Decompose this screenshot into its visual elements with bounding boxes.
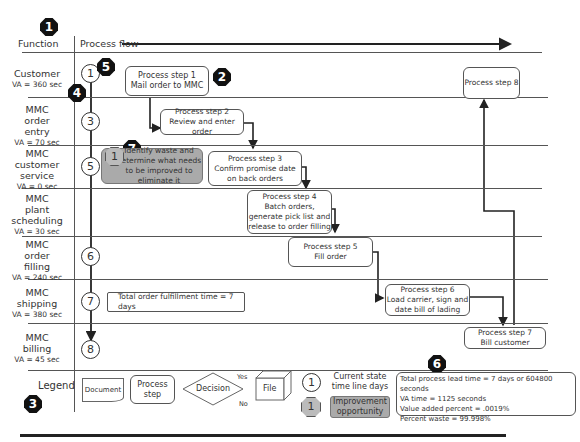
- timeline-circle: 3: [81, 112, 100, 131]
- timeline-circle: 6: [81, 247, 100, 266]
- lead-time: Total process lead time = 7 days or 6048…: [400, 374, 572, 394]
- va-value: VA = 240 sec: [0, 272, 74, 283]
- lane-separator: [28, 323, 548, 324]
- lane-separator: [28, 370, 548, 371]
- badge-1: 1: [40, 18, 58, 36]
- process-step-5[interactable]: Process step 5 Fill order: [288, 237, 373, 267]
- header-separator: [22, 52, 542, 53]
- legend-file: File: [263, 384, 276, 393]
- lane-order-entry: MMC order entry VA = 70 sec: [0, 104, 74, 148]
- lane-customer: Customer VA = 360 sec: [0, 68, 74, 90]
- legend-document: Document: [82, 378, 124, 402]
- process-step-4[interactable]: Process step 4 Batch orders, generate pi…: [247, 190, 332, 234]
- lane-order-filling: MMC order filling VA = 240 sec: [0, 239, 74, 283]
- lane-separator: [22, 188, 542, 189]
- va-time: VA time = 1125 seconds: [400, 394, 572, 404]
- process-step-2[interactable]: Process step 2 Review and enter order: [160, 109, 244, 135]
- legend-timeline-circle: 1: [302, 373, 321, 392]
- process-step-3[interactable]: Process step 3 Confirm promise date on b…: [208, 151, 302, 186]
- va-value: VA = 360 sec: [0, 79, 74, 90]
- legend-improvement-icon: 1: [301, 397, 321, 417]
- process-step-8[interactable]: Process step 8: [463, 67, 520, 99]
- timeline-circle: 7: [81, 292, 100, 311]
- lane-customer-service: MMC customer service VA = 0 sec: [0, 148, 74, 192]
- va-value: VA = 70 sec: [0, 137, 74, 148]
- va-percent: Value added percent = .0019%: [400, 404, 572, 414]
- process-step-1[interactable]: Process step 1 Mail order to MMC: [125, 66, 209, 96]
- process-step-6[interactable]: Process step 6 Load carrier, sign and da…: [385, 284, 470, 316]
- va-value: VA = 0 sec: [0, 181, 74, 192]
- legend-yes: Yes: [237, 373, 248, 381]
- badge-3: 3: [24, 395, 42, 413]
- function-header: Function: [18, 38, 58, 49]
- va-value: VA = 380 sec: [0, 309, 74, 320]
- summary-box: Total process lead time = 7 days or 6048…: [396, 372, 576, 416]
- va-value: VA = 45 sec: [0, 354, 74, 365]
- lane-separator: [28, 145, 548, 146]
- legend-no: No: [239, 400, 248, 408]
- legend-decision: Decision: [196, 384, 230, 393]
- lane-shipping: MMC shipping VA = 380 sec: [0, 287, 74, 320]
- lane-separator: [28, 279, 548, 280]
- va-value: VA = 30 sec: [0, 226, 74, 237]
- lane-billing: MMC billing VA = 45 sec: [0, 332, 74, 365]
- badge-6: 6: [428, 355, 446, 373]
- legend-process-step: Process step: [130, 375, 175, 404]
- legend-improvement-label: Improvement opportunity: [330, 396, 390, 418]
- process-step-7[interactable]: Process step 7 Bill customer: [464, 327, 546, 349]
- lane-separator: [22, 236, 542, 237]
- lane-plant-scheduling: MMC plant scheduling VA = 30 sec: [0, 193, 74, 237]
- fulfillment-note: Total order fulfillment time = 7 days: [107, 292, 245, 312]
- legend-label: Legend: [38, 380, 75, 391]
- bottom-rule: [20, 434, 506, 437]
- timeline-circle: 5: [81, 157, 100, 176]
- process-flow-header: Process flow: [80, 38, 139, 49]
- legend-timeline-label: Current state time line days: [330, 372, 390, 392]
- waste-percent: Percent waste = 99.998%: [400, 414, 572, 424]
- improvement-number-icon: 1: [105, 147, 124, 166]
- timeline-circle: 8: [81, 340, 100, 359]
